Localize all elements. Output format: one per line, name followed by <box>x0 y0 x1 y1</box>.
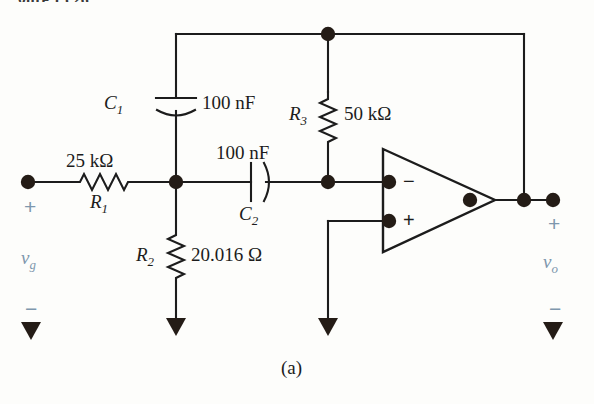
opamp-triangle <box>383 149 495 252</box>
r1-reference-label: R1 <box>90 192 108 216</box>
opamp-noninverting-sign: + <box>403 210 415 230</box>
node-output-terminal <box>546 193 560 207</box>
figure-heading-partial: gure 15.26 <box>18 0 89 2</box>
input-source-label: vg <box>21 248 36 272</box>
opamp-inverting-sign: − <box>403 171 415 191</box>
c1-reference-label: C1 <box>104 93 123 117</box>
node-opamp-inverting-pin <box>382 175 396 189</box>
r2-reference-label: R2 <box>136 245 154 269</box>
c2-value-label: 100 nF <box>216 143 269 162</box>
circuit-figure: gure 15.26 C1 100 nF R3 50 kΩ 25 kΩ R1 1… <box>0 0 594 404</box>
node-opamp-noninverting-pin <box>382 214 396 228</box>
r1-value-label: 25 kΩ <box>66 151 113 170</box>
node-junction-output-feedback <box>517 193 531 207</box>
node-opamp-output-pin <box>463 193 477 207</box>
c2-reference-label: C2 <box>239 204 258 228</box>
r2-resistor-zigzag <box>168 182 184 322</box>
node-junction-c2-r3-inverting <box>321 175 335 189</box>
r2-value-label: 20.016 Ω <box>191 245 262 264</box>
r3-value-label: 50 kΩ <box>344 104 391 123</box>
r3-resistor-zigzag <box>320 92 336 182</box>
ground-symbol-output <box>543 322 563 340</box>
ground-symbol-opamp <box>318 318 338 336</box>
ground-symbol-r2 <box>166 318 186 336</box>
output-minus-sign: − <box>549 298 561 319</box>
input-plus-sign: + <box>24 196 36 217</box>
r1-resistor-zigzag <box>73 174 176 190</box>
input-minus-sign: − <box>25 298 37 319</box>
output-plus-sign: + <box>548 213 560 234</box>
r3-reference-label: R3 <box>289 104 307 128</box>
node-input-terminal <box>21 175 35 189</box>
output-source-label: vo <box>543 252 558 276</box>
ground-symbol-input-source <box>21 322 41 340</box>
c1-value-label: 100 nF <box>202 93 255 112</box>
node-junction-r1-c1-r2-c2 <box>169 175 183 189</box>
node-junction-top-rail-r3 <box>321 27 335 41</box>
figure-caption: (a) <box>281 358 302 377</box>
